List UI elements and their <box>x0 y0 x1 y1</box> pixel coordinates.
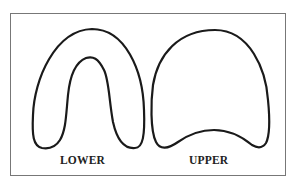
upper-label: UPPER <box>189 154 228 166</box>
arch-diagram <box>0 0 297 185</box>
upper-arch-outline <box>151 30 269 148</box>
lower-arch-outline <box>33 29 145 148</box>
lower-label: LOWER <box>60 154 105 166</box>
